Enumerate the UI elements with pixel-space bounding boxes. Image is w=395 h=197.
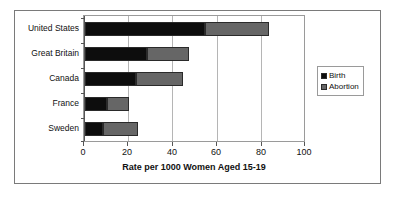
x-tick-80 xyxy=(261,142,262,146)
x-tick-100 xyxy=(304,142,305,146)
legend-item-abortion[interactable]: Abortion xyxy=(321,81,359,92)
bar-segment-abortion-canada[interactable] xyxy=(136,72,183,86)
y-tick-0 xyxy=(81,18,84,19)
x-tick-label-60: 60 xyxy=(211,147,221,157)
bar-segment-abortion-united-states[interactable] xyxy=(205,22,269,36)
plot-area xyxy=(83,15,305,142)
y-tick-3 xyxy=(81,93,84,94)
x-axis: 0 20 40 60 80 100 xyxy=(83,142,305,164)
legend-swatch-birth-icon xyxy=(321,73,327,79)
y-axis-label-france: France xyxy=(1,98,79,108)
bar-segment-birth-canada[interactable] xyxy=(85,72,136,86)
x-tick-label-80: 80 xyxy=(256,147,266,157)
y-tick-2 xyxy=(81,68,84,69)
legend-swatch-abortion-icon xyxy=(321,84,327,90)
legend-label-birth: Birth xyxy=(329,71,345,81)
y-tick-4 xyxy=(81,118,84,119)
x-tick-label-100: 100 xyxy=(296,147,311,157)
chart-legend: Birth Abortion xyxy=(317,66,364,96)
x-tick-label-20: 20 xyxy=(122,147,132,157)
y-axis-label-united-states: United States xyxy=(1,23,79,33)
chart-figure: United States Great Britain Canada Franc… xyxy=(0,0,395,197)
y-axis-label-canada: Canada xyxy=(1,73,79,83)
y-axis-label-great-britain: Great Britain xyxy=(1,48,79,58)
x-tick-0 xyxy=(83,142,84,146)
x-tick-40 xyxy=(172,142,173,146)
legend-label-abortion: Abortion xyxy=(329,82,359,92)
x-axis-title: Rate per 1000 Women Aged 15-19 xyxy=(83,162,305,172)
bar-segment-abortion-great-britain[interactable] xyxy=(147,47,189,61)
bar-segment-birth-france[interactable] xyxy=(85,97,107,111)
bar-segment-abortion-france[interactable] xyxy=(107,97,129,111)
x-tick-60 xyxy=(216,142,217,146)
legend-item-birth[interactable]: Birth xyxy=(321,70,359,81)
x-tick-label-0: 0 xyxy=(80,147,85,157)
bar-segment-abortion-sweden[interactable] xyxy=(103,122,138,136)
x-tick-20 xyxy=(127,142,128,146)
bar-segment-birth-great-britain[interactable] xyxy=(85,47,147,61)
bar-segment-birth-sweden[interactable] xyxy=(85,122,103,136)
y-axis-category-labels: United States Great Britain Canada Franc… xyxy=(0,15,79,142)
bar-segment-birth-united-states[interactable] xyxy=(85,22,205,36)
y-tick-1 xyxy=(81,43,84,44)
x-tick-label-40: 40 xyxy=(167,147,177,157)
y-axis-label-sweden: Sweden xyxy=(1,123,79,133)
